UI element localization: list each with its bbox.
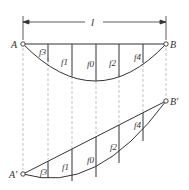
- label-b-prime: B': [170, 96, 179, 107]
- span-label: l: [91, 16, 94, 28]
- bottom-f2: f2: [110, 142, 118, 152]
- bottom-f1: f1: [62, 162, 69, 172]
- top-f3: f3: [39, 47, 47, 57]
- support-b-prime-icon: [164, 99, 168, 103]
- span-dimension: [23, 16, 166, 40]
- sag-diagram: l A B f3 f1 f0 f2 f4 A' B' f3 f: [0, 0, 189, 190]
- label-a-prime: A': [8, 169, 18, 180]
- support-a-prime-icon: [21, 172, 25, 176]
- top-f2: f2: [109, 58, 117, 68]
- bottom-f0: f0: [87, 155, 95, 165]
- top-f1: f1: [61, 57, 68, 67]
- label-a: A: [10, 39, 18, 50]
- support-a-icon: [21, 42, 25, 46]
- bottom-f3: f3: [40, 167, 48, 177]
- label-b: B: [170, 39, 176, 50]
- top-f0: f0: [87, 59, 95, 69]
- top-f4: f4: [134, 52, 142, 62]
- bottom-f4: f4: [134, 120, 142, 130]
- support-b-icon: [164, 42, 168, 46]
- projection-lines: [23, 48, 166, 170]
